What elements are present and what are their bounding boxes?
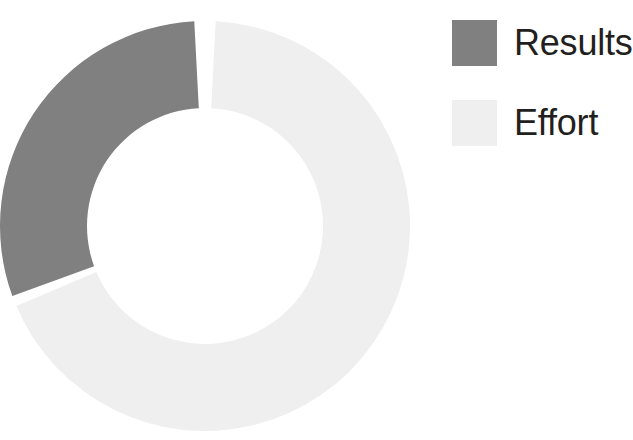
legend-swatch-effort-icon	[452, 100, 497, 146]
legend-item-results[interactable]: Results	[452, 14, 622, 72]
legend-swatch-results-icon	[452, 20, 497, 66]
donut-slices	[0, 21, 410, 431]
donut-slice-results[interactable]	[0, 21, 199, 296]
donut-plot-area	[0, 0, 420, 440]
donut-svg	[0, 0, 420, 440]
legend-label-results: Results	[514, 23, 633, 63]
legend-label-effort: Effort	[514, 103, 598, 143]
chart-legend: Results Effort	[452, 14, 622, 154]
legend-item-effort[interactable]: Effort	[452, 94, 622, 152]
